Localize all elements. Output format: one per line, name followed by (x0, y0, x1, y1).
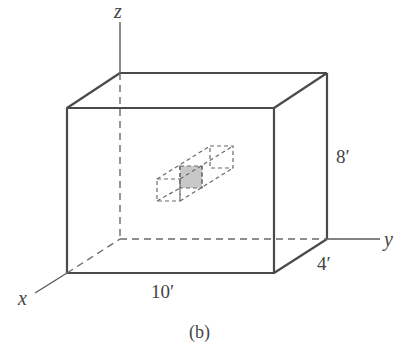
room-diagram: z y x 8′ 4′ 10′ (b) (0, 0, 418, 359)
hidden-x-edge (67, 239, 120, 273)
x-axis (35, 273, 67, 293)
x-axis-label: x (17, 287, 27, 309)
labels: z y x 8′ 4′ 10′ (b) (17, 0, 393, 343)
width-dimension-label: 10′ (151, 281, 174, 302)
top-right-edge (274, 73, 327, 108)
front-face (67, 108, 274, 273)
small-element (157, 146, 233, 201)
figure-caption: (b) (189, 322, 210, 343)
height-dimension-label: 8′ (336, 146, 350, 167)
z-axis-label: z (113, 0, 122, 22)
depth-dimension-label: 4′ (317, 253, 331, 274)
prism-edge-top-right (180, 146, 233, 179)
y-axis-label: y (382, 228, 393, 251)
prism-back-face (210, 146, 233, 168)
prism-edge-bottom-left (157, 188, 180, 201)
top-left-edge (67, 73, 120, 108)
